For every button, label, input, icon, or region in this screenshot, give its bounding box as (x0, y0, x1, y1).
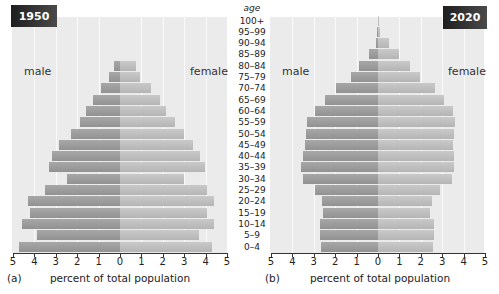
male-bar (305, 140, 378, 150)
female-bar (378, 219, 434, 229)
male-bar (320, 219, 378, 229)
male-bar (323, 208, 378, 218)
gridline (464, 17, 465, 253)
female-bar (120, 174, 184, 184)
gridline (292, 17, 293, 253)
male-bar (336, 83, 378, 93)
female-bar (378, 242, 433, 252)
x-axis-tick-label: 5 (220, 256, 234, 267)
female-bar (120, 117, 175, 127)
age-group-label: 65–69 (226, 95, 278, 106)
age-group-label: 75–79 (226, 72, 278, 83)
panel-caption-b: (b) (265, 272, 280, 284)
female-bar (120, 208, 207, 218)
x-axis-tick-label: 0 (371, 256, 385, 267)
female-bar (378, 49, 399, 59)
gridline (184, 17, 185, 253)
x-axis-tick-label: 3 (307, 256, 321, 267)
female-bar (120, 242, 212, 252)
female-bar (378, 61, 410, 71)
male-bar (359, 61, 378, 71)
female-bar (378, 83, 435, 93)
age-group-label: 100+ (226, 16, 278, 27)
female-bar (120, 129, 184, 139)
age-group-label: 5–9 (226, 230, 278, 241)
female-bar (378, 230, 434, 240)
age-group-label: 85–89 (226, 49, 278, 60)
male-bar (93, 95, 120, 105)
male-bar (315, 185, 378, 195)
x-axis-tick-label: 2 (156, 256, 170, 267)
gridline (206, 17, 207, 253)
male-label-1950: male (24, 65, 51, 78)
male-bar (80, 117, 120, 127)
male-bar (325, 95, 379, 105)
year-badge-1950: 1950 (11, 5, 57, 27)
x-axis-tick-label: 3 (49, 256, 63, 267)
age-group-label: 10–14 (226, 219, 278, 230)
male-bar (320, 230, 378, 240)
female-bar (378, 185, 440, 195)
male-bar (303, 174, 378, 184)
female-bar (120, 196, 214, 206)
male-bar (22, 219, 120, 229)
x-axis-tick-label: 1 (350, 256, 364, 267)
female-bar (378, 72, 420, 82)
male-bar (303, 151, 378, 161)
male-bar (45, 185, 120, 195)
female-label-1950: female (190, 65, 228, 78)
x-axis-tick-label: 1 (92, 256, 106, 267)
female-label-2020: female (448, 65, 486, 78)
male-bar (67, 174, 121, 184)
male-bar (369, 49, 378, 59)
x-axis-tick-label: 3 (435, 256, 449, 267)
male-bar (315, 106, 378, 116)
x-axis-tick-label: 2 (70, 256, 84, 267)
male-bar (86, 106, 120, 116)
male-bar (19, 242, 120, 252)
female-bar (120, 83, 151, 93)
female-bar (378, 38, 389, 48)
male-bar (307, 117, 378, 127)
male-bar (71, 129, 120, 139)
age-group-label: 80–84 (226, 61, 278, 72)
x-axis-tick-label: 1 (134, 256, 148, 267)
age-group-label: 35–39 (226, 162, 278, 173)
x-axis-tick-label: 5 (478, 256, 492, 267)
x-axis-tick-label: 2 (328, 256, 342, 267)
x-axis-tick-label: 4 (199, 256, 213, 267)
age-group-label: 0–4 (226, 242, 278, 253)
male-bar (49, 162, 120, 172)
male-label-2020: male (282, 65, 309, 78)
male-bar (351, 72, 378, 82)
female-bar (378, 27, 380, 37)
age-group-label: 50–54 (226, 129, 278, 140)
x-axis-tick-label: 4 (285, 256, 299, 267)
female-bar (378, 140, 453, 150)
male-bar (101, 83, 120, 93)
x-axis-tick-label: 5 (6, 256, 20, 267)
female-bar (378, 95, 444, 105)
male-bar (30, 208, 120, 218)
female-bar (120, 151, 200, 161)
female-bar (120, 95, 160, 105)
female-bar (378, 16, 379, 26)
x-axis-title-b: percent of total population (280, 272, 480, 284)
x-axis-tick-label: 4 (27, 256, 41, 267)
age-axis-title: age (240, 3, 264, 13)
male-bar (321, 242, 378, 252)
age-group-label: 30–34 (226, 174, 278, 185)
age-group-label: 70–74 (226, 83, 278, 94)
age-group-label: 90–94 (226, 38, 278, 49)
male-bar (109, 72, 120, 82)
male-bar (301, 162, 378, 172)
male-bar (59, 140, 120, 150)
female-bar (120, 106, 166, 116)
age-group-label: 45–49 (226, 140, 278, 151)
female-bar (378, 208, 430, 218)
male-bar (37, 230, 120, 240)
female-bar (378, 151, 454, 161)
female-bar (378, 106, 453, 116)
age-group-label: 60–64 (226, 106, 278, 117)
male-bar (322, 196, 378, 206)
